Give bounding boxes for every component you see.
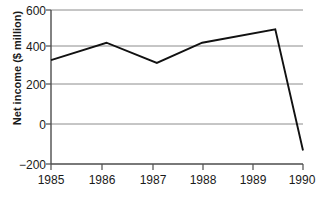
y-axis-ticks (46, 10, 51, 164)
data-series-net-income (51, 29, 303, 150)
gridlines (51, 10, 303, 124)
axes (51, 10, 303, 164)
x-axis-ticks (51, 164, 303, 170)
line-chart: Net income ($ million) 600 400 200 0 −20… (0, 0, 318, 197)
plot-area (0, 0, 318, 197)
